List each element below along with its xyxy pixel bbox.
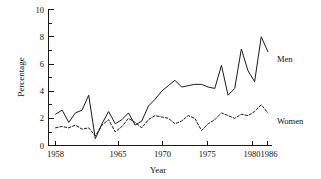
series-line-men [56, 37, 268, 139]
y-axis-tick-labels: 0 2 4 6 8 10 [36, 5, 45, 151]
y-tick-label: 2 [40, 113, 44, 123]
y-tick-label: 8 [40, 32, 44, 42]
chart-screenshot: 0 2 4 6 8 10 1958 1965 1970 1975 1980 19… [0, 0, 321, 179]
x-tick-label: 1965 [110, 149, 127, 159]
x-tick-label: 1975 [199, 149, 216, 159]
series-label-women: Women [277, 116, 304, 126]
x-tick-label: 1980 [244, 149, 261, 159]
y-axis-title: Percentage [16, 57, 26, 96]
x-tick-label: 1986 [261, 149, 278, 159]
y-tick-label: 10 [36, 5, 45, 15]
x-tick-label: 1970 [154, 149, 171, 159]
y-tick-label: 6 [40, 59, 44, 69]
line-chart: 0 2 4 6 8 10 1958 1965 1970 1975 1980 19… [0, 0, 321, 179]
series-label-men: Men [277, 54, 293, 64]
y-axis-ticks [49, 10, 54, 146]
y-tick-label: 0 [40, 141, 44, 151]
x-tick-label: 1958 [47, 149, 64, 159]
series-line-women [56, 105, 268, 136]
y-tick-label: 4 [40, 86, 45, 96]
x-axis-tick-labels: 1958 1965 1970 1975 1980 1986 [47, 149, 278, 159]
x-axis-ticks [56, 141, 268, 146]
x-axis-title: Year [150, 165, 167, 175]
